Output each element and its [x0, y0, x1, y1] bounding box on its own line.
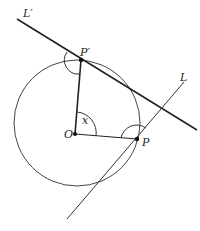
circle — [14, 60, 140, 186]
tangent-line-l — [67, 82, 184, 219]
tangent-line-l-prime — [17, 19, 197, 130]
geometry-diagram: L′ L P′ P O x — [0, 0, 200, 231]
label-p-prime: P′ — [79, 46, 90, 59]
angle-arc-p-prime — [64, 52, 80, 74]
radius-op-prime — [75, 60, 81, 134]
point-o — [73, 132, 77, 136]
label-p: P — [141, 136, 150, 149]
label-l-prime: L′ — [22, 7, 33, 20]
label-o: O — [64, 128, 73, 141]
radius-op — [75, 134, 137, 139]
point-p — [135, 137, 139, 141]
label-x: x — [82, 114, 89, 127]
label-l: L — [179, 71, 187, 84]
